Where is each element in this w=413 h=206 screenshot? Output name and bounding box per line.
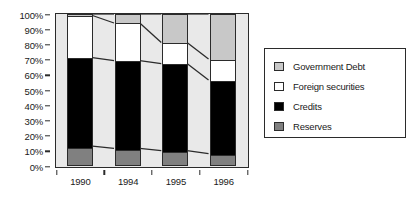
legend-item[interactable]: Government Debt — [274, 56, 405, 76]
y-axis-tick-label: 90% — [25, 24, 43, 35]
y-axis-tick-mark — [45, 151, 50, 152]
y-axis-tick-mark — [45, 120, 50, 121]
bar-segment — [115, 150, 141, 166]
y-axis-tick-label: 40% — [25, 100, 43, 111]
x-axis-tick-mark — [56, 170, 57, 175]
y-axis-tick-mark — [45, 166, 50, 167]
bar-segment — [162, 43, 188, 64]
bar-segment — [67, 148, 93, 166]
stack-connector-line — [140, 61, 162, 64]
bar-segment — [67, 16, 93, 59]
bar-column — [67, 14, 93, 166]
chart-legend: Government DebtForeign securitiesCredits… — [264, 48, 406, 138]
stack-connector-line — [92, 58, 114, 61]
legend-swatch-icon — [274, 62, 284, 71]
plot-area — [55, 13, 249, 168]
x-axis-tick-mark — [247, 170, 248, 175]
x-axis-tick-label: 1995 — [166, 176, 186, 187]
bar-segment — [115, 14, 141, 23]
y-axis-tick-mark — [45, 105, 50, 106]
legend-swatch-icon — [274, 122, 284, 131]
bar-column — [210, 14, 236, 166]
bar-segment — [210, 81, 236, 155]
legend-item[interactable]: Reserves — [274, 116, 405, 136]
bar-segment — [210, 14, 236, 60]
x-axis-tick-label: 1990 — [70, 176, 90, 187]
x-axis-tick-mark — [104, 170, 105, 175]
y-axis-tick-label: 0% — [30, 161, 43, 172]
x-axis-tick-mark — [151, 170, 152, 175]
stack-connector-line — [140, 148, 162, 150]
stack-connector-line — [92, 146, 114, 148]
y-axis-tick-label: 100% — [20, 9, 44, 20]
y-axis-tick-label: 30% — [25, 115, 43, 126]
y-axis-tick-label: 80% — [25, 39, 43, 50]
bar-segment — [115, 23, 141, 61]
bar-segment — [67, 58, 93, 148]
y-axis-tick-mark — [45, 59, 50, 60]
y-axis-tick-label: 60% — [25, 70, 43, 81]
bar-segment — [210, 155, 236, 166]
stack-connector-line — [187, 64, 209, 81]
x-axis-tick-mark — [199, 170, 200, 175]
y-axis-tick-label: 20% — [25, 131, 43, 142]
bars-container — [56, 14, 248, 167]
stack-connector-line — [140, 23, 162, 43]
y-axis-tick-label: 70% — [25, 55, 43, 66]
y-axis: 0%10%20%30%40%50%60%70%80%90%100% — [0, 13, 50, 168]
x-axis: 1990199419951996 — [55, 170, 249, 192]
y-axis-tick-mark — [45, 90, 50, 91]
bar-segment — [162, 14, 188, 43]
y-axis-tick-mark — [45, 75, 50, 76]
stack-connector-line — [187, 43, 209, 60]
y-axis-tick-mark — [45, 29, 50, 30]
legend-swatch-icon — [274, 102, 284, 111]
legend-item-label: Reserves — [293, 121, 332, 132]
bar-column — [115, 14, 141, 166]
legend-item-label: Government Debt — [293, 61, 365, 72]
legend-item-label: Credits — [293, 101, 322, 112]
bar-segment — [210, 60, 236, 81]
bar-segment — [162, 152, 188, 166]
legend-item-label: Foreign securities — [293, 81, 364, 92]
y-axis-tick-mark — [45, 14, 50, 15]
y-axis-tick-label: 50% — [25, 85, 43, 96]
chart-figure: 0%10%20%30%40%50%60%70%80%90%100% 199019… — [0, 0, 413, 206]
x-axis-tick-label: 1994 — [118, 176, 138, 187]
y-axis-tick-label: 10% — [25, 146, 43, 157]
x-axis-tick-label: 1996 — [213, 176, 233, 187]
stack-connector-line — [187, 151, 209, 154]
bar-segment — [115, 61, 141, 150]
bar-column — [162, 14, 188, 166]
stack-connector-line — [92, 16, 114, 24]
legend-swatch-icon — [274, 82, 284, 91]
y-axis-tick-mark — [45, 44, 50, 45]
legend-item[interactable]: Foreign securities — [274, 76, 405, 96]
bar-segment — [162, 64, 188, 152]
y-axis-tick-mark — [45, 135, 50, 136]
bar-segment — [67, 14, 93, 16]
legend-item[interactable]: Credits — [274, 96, 405, 116]
